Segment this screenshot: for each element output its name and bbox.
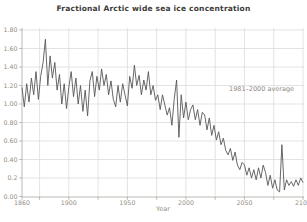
y-tick-label: 1.00 bbox=[3, 100, 17, 107]
y-tick-label: 0.2 bbox=[7, 174, 17, 181]
y-tick-label: 0.40 bbox=[3, 156, 17, 163]
x-axis-label: Year bbox=[22, 205, 304, 213]
y-tick-label: 0.80 bbox=[3, 119, 17, 126]
chart: Fractional Arctic wide sea ice concentra… bbox=[0, 0, 307, 222]
annotation-1981-2000-average: 1981–2000 average bbox=[229, 85, 294, 93]
y-tick-label: 1.20 bbox=[3, 82, 17, 89]
plot-area: 1860190019502000205021001.801.601.401.20… bbox=[0, 0, 307, 222]
y-tick-label: 0.00 bbox=[3, 193, 17, 200]
y-tick-label: 1.60 bbox=[3, 45, 17, 52]
y-tick-label: 1.40 bbox=[3, 63, 17, 70]
y-tick-label: 1.80 bbox=[3, 26, 17, 33]
y-tick-label: 0.60 bbox=[3, 137, 17, 144]
series-line bbox=[22, 39, 303, 192]
